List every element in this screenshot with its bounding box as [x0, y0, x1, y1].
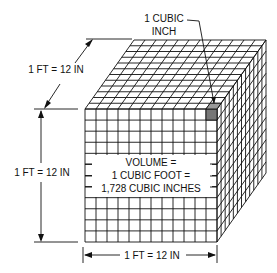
- arrowhead-icon: [208, 252, 216, 258]
- callout-line-2: INCH: [152, 26, 176, 37]
- height-dimension-label: 1 FT = 12 IN: [14, 167, 70, 178]
- callout-leader-line: [187, 20, 214, 103]
- arrowhead-icon: [38, 234, 44, 242]
- arrowhead-icon: [85, 39, 93, 47]
- arrowhead-icon: [84, 252, 92, 258]
- cube-diagram: VOLUME = 1 CUBIC FOOT = 1,728 CUBIC INCH…: [0, 0, 277, 273]
- callout-line-1: 1 CUBIC: [144, 13, 183, 24]
- arrowhead-icon: [38, 110, 44, 118]
- cube-grid: [85, 40, 266, 242]
- volume-line-1: VOLUME =: [126, 157, 177, 168]
- volume-line-2: 1 CUBIC FOOT =: [112, 170, 191, 181]
- volume-line-3: 1,728 CUBIC INCHES: [101, 183, 201, 194]
- depth-dimension-label: 1 FT = 12 IN: [28, 64, 84, 75]
- width-dimension-label: 1 FT = 12 IN: [124, 250, 180, 261]
- arrowhead-icon: [44, 100, 51, 109]
